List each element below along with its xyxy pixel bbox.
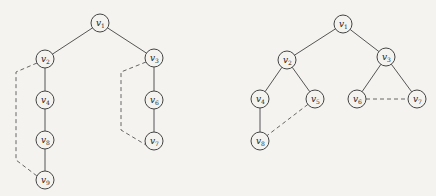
edge-v3-v6 xyxy=(362,64,381,91)
dashed-edge-v5-v8 xyxy=(267,104,308,135)
node-subscript: 7 xyxy=(418,98,422,105)
node-v1: v1 xyxy=(334,15,352,33)
node-v2: v2 xyxy=(36,50,54,68)
edge-v1-v3 xyxy=(108,28,147,53)
node-v7: v7 xyxy=(145,132,163,150)
node-subscript: 6 xyxy=(155,99,159,106)
node-subscript: 3 xyxy=(155,57,159,64)
node-subscript: 8 xyxy=(46,139,50,146)
nodes-layer: v1v2v3v4v6v8v7v9v1v2v3v4v5v6v7v8 xyxy=(36,14,426,189)
node-v8: v8 xyxy=(36,131,54,149)
node-v8: v8 xyxy=(251,132,269,150)
node-subscript: 3 xyxy=(387,56,391,63)
edge-v1-v2 xyxy=(295,29,336,55)
node-subscript: 6 xyxy=(358,98,362,105)
node-v3: v3 xyxy=(377,48,395,66)
node-v5: v5 xyxy=(306,90,324,108)
node-v9: v9 xyxy=(36,171,54,189)
node-v4: v4 xyxy=(36,91,54,109)
node-v6: v6 xyxy=(348,90,366,108)
edge-v1-v3 xyxy=(350,29,379,51)
node-subscript: 7 xyxy=(155,140,159,147)
node-v1: v1 xyxy=(91,14,109,32)
node-v2: v2 xyxy=(278,51,296,69)
edge-v3-v7 xyxy=(391,64,411,92)
node-subscript: 4 xyxy=(261,98,265,105)
node-subscript: 1 xyxy=(101,22,105,29)
dashed-edge-v3-v7 xyxy=(121,62,146,145)
node-v3: v3 xyxy=(145,49,163,67)
right-tree xyxy=(260,29,412,136)
node-subscript: 1 xyxy=(344,23,348,30)
node-subscript: 5 xyxy=(316,98,320,105)
node-v6: v6 xyxy=(145,91,163,109)
node-subscript: 2 xyxy=(46,58,50,65)
dashed-edge-v2-v9 xyxy=(16,63,37,176)
node-subscript: 4 xyxy=(46,99,50,106)
node-subscript: 9 xyxy=(46,179,50,186)
edge-v1-v2 xyxy=(53,28,93,54)
edge-v2-v5 xyxy=(292,67,310,91)
node-subscript: 2 xyxy=(288,59,292,66)
node-subscript: 8 xyxy=(261,140,265,147)
graph-diagram: v1v2v3v4v6v8v7v9v1v2v3v4v5v6v7v8 xyxy=(0,0,436,196)
node-v4: v4 xyxy=(251,90,269,108)
edge-v2-v4 xyxy=(265,67,282,91)
right-tree-nodes: v1v2v3v4v5v6v7v8 xyxy=(251,15,426,150)
node-v7: v7 xyxy=(408,90,426,108)
left-tree-nodes: v1v2v3v4v6v8v7v9 xyxy=(36,14,163,189)
